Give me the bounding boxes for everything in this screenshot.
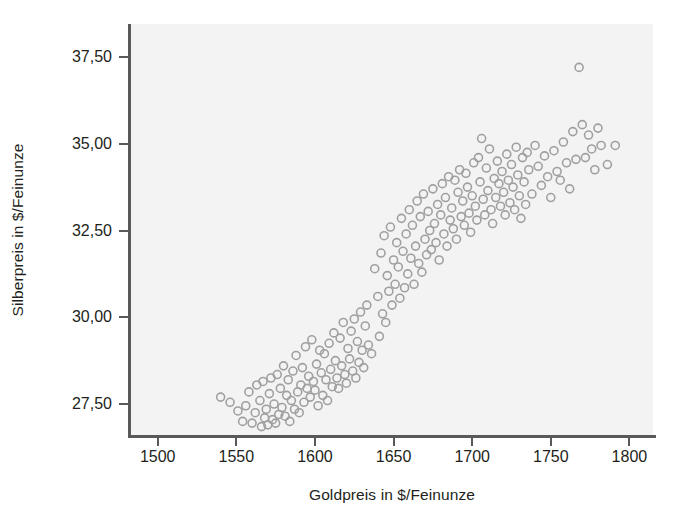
data-point [412,242,420,250]
data-point [503,150,511,158]
data-point [251,409,259,417]
data-point [346,355,354,363]
data-point [355,358,363,366]
y-tick-label: 32,50 [36,223,112,239]
data-point [523,148,531,156]
data-point [217,393,225,401]
data-point [429,185,437,193]
data-point [438,180,446,188]
data-point [531,141,539,149]
y-tick-mark [119,143,128,145]
data-point [287,397,295,405]
x-tick-label: 1750 [516,449,586,465]
y-tick-mark [119,230,128,232]
data-point [379,310,387,318]
data-point [353,338,361,346]
data-point [347,327,355,335]
data-point [572,155,580,163]
data-point [575,63,583,71]
data-point [498,168,506,176]
data-point [591,166,599,174]
x-axis-title: Goldpreis in $/Feinunze [130,486,654,504]
data-point [452,235,460,243]
data-point [418,268,426,276]
data-point [490,174,498,182]
data-point [413,197,421,205]
data-point [419,190,427,198]
data-point [578,121,586,129]
x-tick-label: 1650 [359,449,429,465]
data-point [493,157,501,165]
data-point [435,256,443,264]
data-point [386,223,394,231]
data-point [495,180,503,188]
data-point [270,400,278,408]
x-tick-label: 1700 [437,449,507,465]
data-point [408,221,416,229]
data-point [393,239,401,247]
data-point [520,178,528,186]
data-point [410,280,418,288]
data-point [492,194,500,202]
data-point [585,131,593,139]
data-point [451,176,459,184]
data-point [457,213,465,221]
y-axis-line [128,24,131,438]
data-point [289,367,297,375]
x-tick-mark [628,437,630,446]
data-point [338,362,346,370]
data-point [388,301,396,309]
data-point [465,209,473,217]
data-point [482,164,490,172]
data-point [440,230,448,238]
data-point [344,345,352,353]
data-point [525,166,533,174]
data-point [476,178,484,186]
y-axis-title-text: Silberpreis in $/Feinunze [9,143,27,316]
data-point [352,374,360,382]
data-point [511,206,519,214]
data-point [500,188,508,196]
data-point [333,374,341,382]
data-point [302,343,310,351]
data-point [594,124,602,132]
data-point [569,128,577,136]
data-point [611,141,619,149]
data-point [314,402,322,410]
data-point [443,242,451,250]
data-point [324,397,332,405]
y-tick-mark [119,56,128,58]
data-point [276,384,284,392]
data-point [534,162,542,170]
data-point [487,206,495,214]
data-point [501,211,509,219]
data-points-layer [131,24,653,437]
data-point [380,232,388,240]
data-point [298,364,306,372]
data-point [485,145,493,153]
data-point [424,207,432,215]
data-point [248,419,256,427]
data-point [397,214,405,222]
data-point [273,371,281,379]
x-tick-mark [314,437,316,446]
data-point [423,251,431,259]
data-point [556,176,564,184]
data-point [441,194,449,202]
data-point [234,407,242,415]
data-point [309,377,317,385]
data-point [405,206,413,214]
data-point [454,188,462,196]
x-tick-mark [471,437,473,446]
data-point [325,339,333,347]
data-point [507,161,515,169]
data-point [292,351,300,359]
data-point [245,388,253,396]
x-tick-mark [235,437,237,446]
data-point [581,154,589,162]
data-point [286,417,294,425]
data-point [496,202,504,210]
data-point [474,154,482,162]
data-point [339,318,347,326]
data-point [437,211,445,219]
